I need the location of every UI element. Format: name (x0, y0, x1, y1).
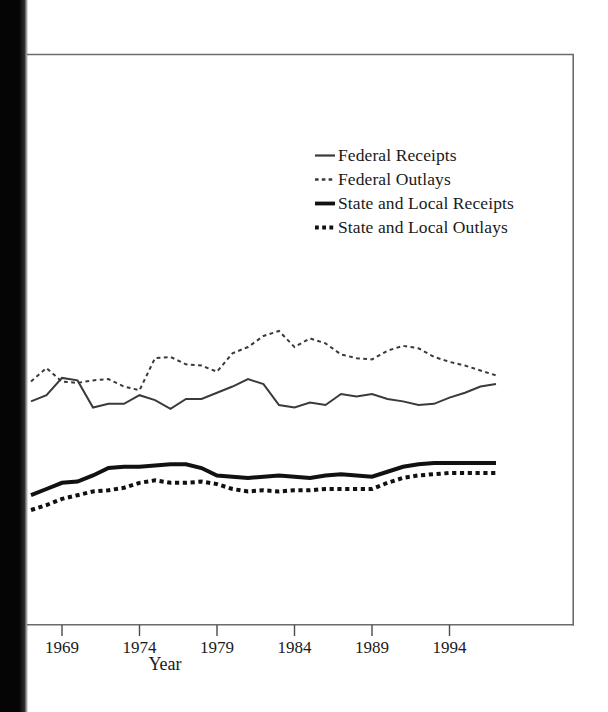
x-axis-title: Year (148, 654, 181, 675)
x-axis-ticks (62, 625, 450, 636)
series-line (31, 378, 496, 409)
legend-label-federal-outlays: Federal Outlays (338, 170, 451, 189)
legend-swatch-dotted-thick-icon (314, 221, 336, 233)
plot-canvas (0, 0, 608, 712)
legend-swatch-solid-thick-icon (314, 197, 336, 209)
data-series-layer (31, 331, 496, 510)
chart-legend: Federal Receipts Federal Outlays State a… (314, 143, 554, 239)
legend-item-state-local-outlays: State and Local Outlays (314, 215, 554, 239)
legend-item-federal-outlays: Federal Outlays (314, 167, 554, 191)
legend-item-state-local-receipts: State and Local Receipts (314, 191, 554, 215)
legend-label-state-local-receipts: State and Local Receipts (338, 194, 514, 213)
plot-frame (27, 55, 574, 626)
legend-label-state-local-outlays: State and Local Outlays (338, 218, 508, 237)
x-axis-tick-label: 1979 (200, 638, 234, 658)
x-axis-tick-label: 1994 (433, 638, 467, 658)
x-axis-tick-label: 1969 (45, 638, 79, 658)
x-axis-tick-label: 1984 (278, 638, 312, 658)
legend-swatch-solid-thin-icon (314, 149, 336, 161)
legend-swatch-dotted-thin-icon (314, 173, 336, 185)
series-line (31, 331, 496, 390)
chart-page: Federal Receipts Federal Outlays State a… (0, 0, 608, 712)
line-chart-figure: Federal Receipts Federal Outlays State a… (0, 0, 608, 712)
x-axis-tick-label: 1989 (355, 638, 389, 658)
legend-label-federal-receipts: Federal Receipts (338, 146, 457, 165)
legend-item-federal-receipts: Federal Receipts (314, 143, 554, 167)
